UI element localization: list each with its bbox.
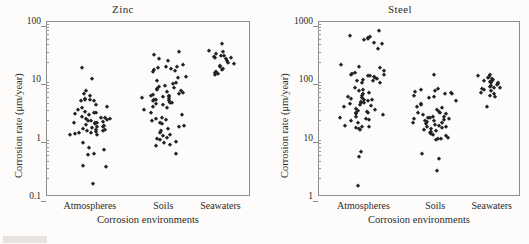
x-tick-label-seawaters: Seawaters (471, 200, 512, 211)
chart-title-steel: Steel (271, 3, 529, 15)
y-tick-1000: 1000 (280, 21, 313, 31)
y-minor-tick (46, 85, 49, 86)
y-minor-tick (318, 120, 321, 121)
caption-fragment (3, 236, 47, 243)
x-axis-label-zinc: Corrosion environments (97, 214, 199, 225)
y-tick-label: 1000 (280, 16, 313, 26)
x-tick-label-atmospheres: Atmospheres (337, 200, 390, 211)
y-tick-10: 10 (8, 79, 41, 89)
x-tick-label-soils: Soils (425, 200, 445, 211)
y-minor-tick (318, 143, 321, 144)
y-minor-tick (318, 24, 321, 25)
y-tick-label: 1 (8, 133, 41, 143)
y-minor-tick (46, 103, 49, 104)
y-minor-tick (46, 97, 49, 98)
y-minor-tick (318, 44, 321, 45)
y-minor-tick (318, 92, 321, 93)
y-minor-tick (46, 168, 49, 169)
y-tick-1: 1 (280, 196, 313, 206)
y-minor-tick (318, 103, 321, 104)
plot-area-steel (318, 21, 520, 196)
y-minor-tick (318, 52, 321, 53)
y-minor-tick (46, 27, 49, 28)
y-minor-tick (46, 110, 49, 111)
y-minor-tick (318, 110, 321, 111)
y-tick-mark (41, 201, 46, 202)
y-tick-label: 10 (8, 74, 41, 84)
y-minor-tick (46, 52, 49, 53)
y-minor-tick (46, 151, 49, 152)
x-axis-label-steel: Corrosion environments (368, 214, 470, 225)
x-tick-label-soils: Soils (153, 200, 173, 211)
y-minor-tick (318, 97, 321, 98)
y-minor-tick (46, 147, 49, 148)
y-minor-tick (46, 39, 49, 40)
y-minor-tick (318, 178, 321, 179)
y-minor-tick (318, 85, 321, 86)
chart-title-zinc: Zinc (0, 3, 264, 15)
x-tick-label-atmospheres: Atmospheres (63, 200, 116, 211)
y-minor-tick (318, 39, 321, 40)
y-tick-mark (313, 201, 318, 202)
y-minor-tick (318, 30, 321, 31)
y-tick-100: 100 (8, 21, 41, 31)
y-tick-label: 1 (280, 191, 313, 201)
y-minor-tick (318, 34, 321, 35)
y-minor-tick (46, 62, 49, 63)
y-tick-label: 0.1 (8, 191, 41, 201)
y-minor-tick (318, 155, 321, 156)
y-minor-tick (318, 88, 321, 89)
y-tick-label: 100 (280, 74, 313, 84)
y-minor-tick (318, 140, 321, 141)
y-tick-0.1: 0.1 (8, 196, 41, 206)
y-minor-tick (46, 82, 49, 83)
y-minor-tick (46, 34, 49, 35)
y-minor-tick (46, 24, 49, 25)
y-tick-label: 100 (8, 16, 41, 26)
chart-panel-steel: Steel Corrosion rate (μm/year) 110100100… (265, 0, 529, 244)
y-minor-tick (318, 161, 321, 162)
x-tick-label-seawaters: Seawaters (200, 200, 241, 211)
y-minor-tick (46, 88, 49, 89)
y-minor-tick (318, 147, 321, 148)
y-minor-tick (46, 120, 49, 121)
chart-panel-zinc: Zinc Corrosion rate (μm/year) 0.1110100 … (0, 0, 264, 244)
y-minor-tick (318, 151, 321, 152)
y-tick-label: 10 (280, 133, 313, 143)
y-minor-tick (46, 155, 49, 156)
y-minor-tick (46, 92, 49, 93)
y-minor-tick (46, 30, 49, 31)
figure-container: Zinc Corrosion rate (μm/year) 0.1110100 … (0, 0, 529, 244)
y-minor-tick (46, 143, 49, 144)
y-minor-tick (318, 27, 321, 28)
y-tick-10: 10 (280, 138, 313, 148)
y-tick-100: 100 (280, 79, 313, 89)
y-minor-tick (46, 140, 49, 141)
y-minor-tick (46, 178, 49, 179)
y-minor-tick (318, 62, 321, 63)
y-minor-tick (318, 82, 321, 83)
y-minor-tick (46, 161, 49, 162)
y-minor-tick (46, 44, 49, 45)
y-tick-1: 1 (8, 138, 41, 148)
y-minor-tick (318, 168, 321, 169)
